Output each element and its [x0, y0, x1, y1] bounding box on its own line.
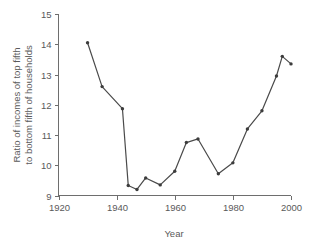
data-series-line	[88, 43, 291, 190]
data-point-marker	[246, 127, 249, 130]
data-point-marker	[260, 109, 263, 112]
y-axis-title-line1: Ratio of incomes of top fifth	[11, 47, 22, 162]
data-point-marker	[159, 183, 162, 186]
y-tick-label: 9	[46, 191, 51, 202]
data-point-marker	[289, 62, 292, 65]
data-point-marker	[144, 176, 147, 179]
y-tick-marks	[55, 15, 59, 197]
x-tick-label: 2000	[281, 202, 302, 213]
data-point-marker	[173, 170, 176, 173]
data-point-marker	[121, 107, 124, 110]
x-axis-title: Year	[164, 228, 183, 239]
y-axis-title-line2: to bottom fifth of households	[23, 45, 34, 165]
y-tick-label: 10	[41, 160, 52, 171]
chart-axes	[59, 14, 292, 196]
y-tick-label: 15	[41, 9, 52, 20]
data-point-marker	[196, 137, 199, 140]
x-tick-label: 1980	[223, 202, 244, 213]
data-point-marker	[127, 184, 130, 187]
data-point-marker	[135, 188, 138, 191]
y-tick-label: 11	[42, 130, 52, 141]
y-tick-labels: 9101112131415	[41, 9, 52, 202]
x-tick-marks	[60, 196, 292, 200]
x-tick-labels: 19201940196019802000	[49, 202, 302, 213]
y-tick-label: 14	[41, 39, 52, 50]
chart-page: 9101112131415 19201940196019802000 Year …	[0, 0, 316, 250]
data-point-marker	[281, 55, 284, 58]
x-tick-label: 1960	[165, 202, 186, 213]
y-tick-label: 12	[41, 100, 52, 111]
data-point-marker	[217, 172, 220, 175]
data-point-marker	[100, 85, 103, 88]
income-ratio-line-chart: 9101112131415 19201940196019802000 Year …	[0, 0, 316, 250]
x-tick-label: 1920	[49, 202, 70, 213]
data-point-marker	[275, 74, 278, 77]
x-tick-label: 1940	[107, 202, 128, 213]
data-point-marker	[86, 41, 89, 44]
y-tick-label: 13	[41, 70, 52, 81]
data-point-marker	[185, 141, 188, 144]
data-point-marker	[231, 161, 234, 164]
data-series-markers	[86, 41, 293, 191]
